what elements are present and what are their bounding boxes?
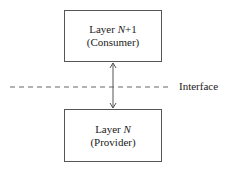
top-box-title: Layer N+1	[89, 23, 136, 36]
top-box-role: (Consumer)	[87, 36, 140, 49]
bottom-box-role: (Provider)	[90, 136, 135, 149]
top-box-var: N	[118, 23, 125, 35]
layer-n-box: Layer N (Provider)	[64, 109, 162, 162]
bottom-box-prefix: Layer	[95, 123, 123, 135]
top-box-prefix: Layer	[89, 23, 117, 35]
top-box-suffix: +1	[125, 23, 137, 35]
bottom-box-title: Layer N	[95, 123, 131, 136]
bottom-box-var: N	[124, 123, 131, 135]
layer-n-plus-1-box: Layer N+1 (Consumer)	[64, 10, 162, 62]
interface-label: Interface	[179, 80, 218, 93]
